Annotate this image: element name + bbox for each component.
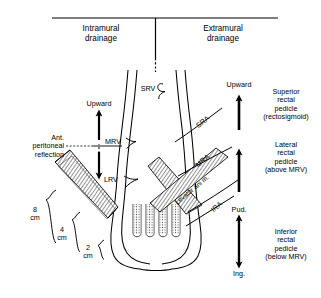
label-lrv: LRV bbox=[98, 176, 124, 184]
label-2cm: 2 cm bbox=[76, 244, 100, 261]
label-mrv: MRV bbox=[100, 138, 126, 146]
label-srv: SRV bbox=[136, 85, 160, 93]
mrv-vessel bbox=[126, 138, 136, 149]
pedicle-label-inferior-rectal: Inferior rectal pedicle (below MRV) bbox=[252, 228, 320, 262]
pedicle-label-lateral-rectal: Lateral rectal pedicle (above MRV) bbox=[252, 141, 320, 175]
pedicle-label-superior-rectal: Superior rectal pedicle (rectosigmoid) bbox=[252, 88, 320, 122]
label-pud: Pud. bbox=[224, 206, 254, 214]
label-upward-intramural: Upward bbox=[74, 100, 124, 108]
label-ing: Ing. bbox=[224, 270, 254, 278]
header-intramural-drainage: Intramural drainage bbox=[58, 24, 144, 44]
anatomical-diagram: Intramural drainage Extramural drainage … bbox=[0, 0, 321, 298]
left-hatched-band bbox=[55, 150, 118, 219]
header-extramural-drainage: Extramural drainage bbox=[178, 24, 268, 44]
label-ant-peritoneal-reflection: Ant. peritoneal reflection bbox=[2, 134, 64, 159]
label-8cm: 8 cm bbox=[23, 206, 47, 223]
label-4cm: 4 cm bbox=[50, 226, 74, 243]
